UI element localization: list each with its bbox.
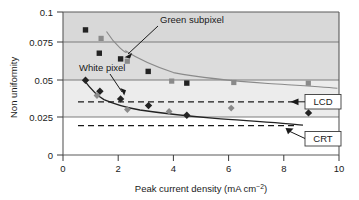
data-point bbox=[99, 36, 104, 41]
data-point bbox=[125, 59, 130, 64]
x-tick-label-2: 2 bbox=[116, 163, 121, 174]
x-tick-label-4: 4 bbox=[171, 163, 176, 174]
y-axis-ticks bbox=[57, 12, 63, 155]
y-tick-label-0: 0 bbox=[48, 150, 53, 161]
data-point bbox=[169, 79, 174, 84]
x-tick-label-8: 8 bbox=[281, 163, 286, 174]
data-point bbox=[306, 81, 311, 86]
y-tick-label-0.1: 0.1 bbox=[40, 7, 53, 18]
green-subpixel-annotation-label: Green subpixel bbox=[160, 14, 224, 25]
x-tick-label-10: 10 bbox=[334, 163, 345, 174]
chart-figure: 0.1 0.075 0.05 0.025 0 Non uniformity 0 … bbox=[0, 0, 359, 200]
data-point bbox=[83, 27, 88, 32]
plot-background bbox=[63, 12, 339, 155]
x-axis-title-main: Peak current density (mA cm bbox=[135, 183, 257, 194]
lcd-label-text: LCD bbox=[313, 96, 332, 107]
x-axis-ticks bbox=[63, 155, 339, 161]
x-axis-title-tail: ) bbox=[264, 183, 267, 194]
data-point bbox=[231, 80, 236, 85]
crt-label-text: CRT bbox=[313, 133, 333, 144]
data-point bbox=[146, 69, 151, 74]
x-axis-title: Peak current density (mA cm−2) bbox=[135, 183, 267, 195]
y-tick-label-0.025: 0.025 bbox=[29, 112, 53, 123]
y-tick-label-0.05: 0.05 bbox=[35, 75, 54, 86]
data-point bbox=[97, 51, 102, 56]
x-tick-label-6: 6 bbox=[226, 163, 231, 174]
white-pixel-annotation-label: White pixel bbox=[79, 62, 125, 73]
x-tick-label-0: 0 bbox=[60, 163, 65, 174]
y-tick-label-0.075: 0.075 bbox=[29, 37, 53, 48]
non-uniformity-scatter-chart: 0.1 0.075 0.05 0.025 0 Non uniformity 0 … bbox=[0, 0, 359, 200]
y-axis-title: Non uniformity bbox=[8, 57, 19, 118]
data-point bbox=[118, 56, 123, 61]
data-point bbox=[184, 80, 189, 85]
